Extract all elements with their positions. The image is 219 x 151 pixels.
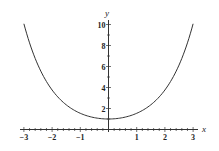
y-tick-label: 8 (102, 42, 106, 51)
y-tick-label: 4 (102, 84, 106, 93)
cosh-chart: −3−2−1123246810 x y (0, 0, 219, 151)
axes (20, 20, 198, 132)
x-tick-label: −3 (20, 133, 29, 142)
x-tick-label: 3 (191, 133, 195, 142)
y-tick-label: 10 (98, 21, 106, 30)
x-tick-label: 2 (163, 133, 167, 142)
y-axis-label: y (104, 8, 109, 18)
x-tick-label: −1 (76, 133, 85, 142)
x-tick-label: 1 (135, 133, 139, 142)
y-tick-label: 6 (102, 63, 106, 72)
y-tick-label: 2 (102, 105, 106, 114)
x-tick-label: −2 (48, 133, 57, 142)
x-axis-label: x (201, 124, 206, 134)
